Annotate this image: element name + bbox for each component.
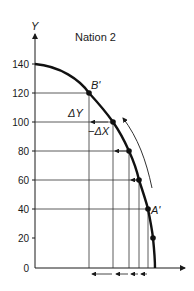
svg-text:100: 100 (12, 117, 29, 128)
svg-text:120: 120 (12, 88, 29, 99)
frontier-points (86, 90, 156, 241)
chart-title: Nation 2 (75, 31, 116, 43)
y-tick-labels: 140 120 100 80 60 40 20 0 (12, 59, 29, 274)
minus-delta-x-label: −ΔX (88, 125, 110, 137)
svg-text:140: 140 (12, 59, 29, 70)
svg-text:0: 0 (23, 263, 29, 274)
svg-text:60: 60 (18, 175, 30, 186)
svg-text:20: 20 (18, 233, 30, 244)
delta-y-label: ΔY (67, 107, 83, 119)
point-a-label: A' (150, 204, 161, 216)
ppf-chart: Y Nation 2 B' A' ΔY −ΔX 140 120 100 80 6… (0, 0, 194, 291)
svg-text:40: 40 (18, 204, 30, 215)
ppf-curve (35, 64, 155, 268)
svg-text:80: 80 (18, 146, 30, 157)
point-b-label: B' (91, 79, 101, 91)
y-axis-label: Y (31, 20, 39, 32)
